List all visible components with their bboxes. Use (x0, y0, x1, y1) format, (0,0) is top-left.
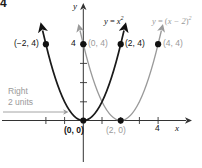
figure-container: 4 (0, 0, 202, 168)
point-4-4 (155, 41, 161, 47)
point-label-4-4: (4, 4) (163, 39, 183, 48)
axis-x-label: x (175, 124, 179, 133)
point-2-0 (118, 117, 124, 123)
tick-label-x-4: 4 (155, 124, 160, 133)
equation-shifted-eq: = ( (156, 16, 168, 26)
point-2-4 (118, 41, 124, 47)
equation-shifted-exponent: 2 (189, 15, 192, 21)
point-label-0-0: (0, 0) (64, 126, 84, 135)
shift-annotation-line2: 2 units (8, 97, 33, 108)
equation-shifted-base: x − 2 (168, 16, 186, 26)
axis-y-label: y (73, 2, 77, 11)
point-0-4 (80, 41, 86, 47)
point-neg2-4 (43, 41, 49, 47)
tick-label-y-4: 4 (71, 39, 76, 48)
equation-shifted: y = (x − 2)2 (152, 14, 192, 26)
point-0-0 (80, 117, 86, 123)
equation-parent-eq: = (108, 16, 117, 26)
point-label-0-4: (0, 4) (88, 39, 108, 48)
equation-parent-exponent: 2 (121, 15, 124, 21)
equation-parent: y = x2 (104, 14, 124, 26)
point-label-2-0: (2, 0) (106, 126, 126, 135)
axis-y (80, 9, 87, 162)
point-label-neg2-4: (−2, 4) (14, 39, 39, 48)
point-label-2-4: (2, 4) (125, 39, 145, 48)
shift-annotation-line1: Right (8, 86, 33, 97)
shift-annotation: Right 2 units (8, 86, 33, 107)
